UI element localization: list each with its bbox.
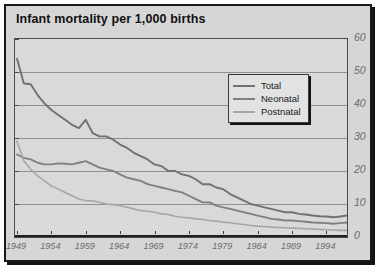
legend-label: Neonatal bbox=[261, 93, 299, 104]
y-axis-label: 50 bbox=[354, 64, 366, 76]
x-axis-label: 1989 bbox=[276, 241, 306, 251]
x-axis-label: 1969 bbox=[139, 241, 169, 251]
y-axis-label: 60 bbox=[354, 31, 366, 43]
x-axis-label: 1959 bbox=[70, 241, 100, 251]
x-axis-label: 1964 bbox=[104, 241, 134, 251]
legend-item: Neonatal bbox=[233, 92, 301, 105]
x-axis-label: 1974 bbox=[173, 241, 203, 251]
legend-item: Postnatal bbox=[233, 105, 301, 118]
legend-swatch-icon bbox=[233, 111, 255, 113]
legend-label: Total bbox=[261, 80, 281, 91]
y-axis-label: 10 bbox=[354, 196, 366, 208]
plot-svg bbox=[15, 39, 347, 237]
y-axis-label: 30 bbox=[354, 130, 366, 142]
chart-legend: TotalNeonatalPostnatal bbox=[228, 74, 309, 123]
y-axis-label: 20 bbox=[354, 163, 366, 175]
x-axis-label: 1979 bbox=[207, 241, 237, 251]
y-axis-label: 40 bbox=[354, 97, 366, 109]
legend-swatch-icon bbox=[233, 98, 255, 100]
chart-title: Infant mortality per 1,000 births bbox=[16, 12, 205, 26]
chart-card: Infant mortality per 1,000 births 605040… bbox=[4, 4, 372, 262]
legend-swatch-icon bbox=[233, 85, 255, 87]
y-axis-label: 0 bbox=[354, 229, 360, 241]
legend-label: Postnatal bbox=[261, 106, 301, 117]
legend-item: Total bbox=[233, 79, 301, 92]
x-axis-label: 1949 bbox=[1, 241, 31, 251]
x-axis-label: 1984 bbox=[242, 241, 272, 251]
x-axis-label: 1954 bbox=[35, 241, 65, 251]
series-line-postnatal bbox=[17, 141, 347, 230]
x-axis-label: 1994 bbox=[310, 241, 340, 251]
plot-area bbox=[14, 38, 348, 238]
